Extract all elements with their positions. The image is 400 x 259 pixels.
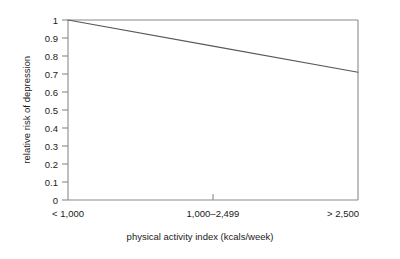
y-tick-label-1: 1	[18, 16, 58, 26]
y-axis-ticks	[62, 20, 68, 200]
data-line-relative-risk	[68, 20, 358, 72]
y-tick-label-0: 0	[18, 196, 58, 206]
x-tick-label-under-1000: < 1,000	[38, 209, 98, 219]
chart-figure: 1 0.9 0.8 0.7 0.6 0.5 0.4 0.3 0.2 0.1 0 …	[0, 0, 400, 259]
x-tick-label-over-2500: > 2,500	[313, 209, 373, 219]
x-axis-title: physical activity index (kcals/week)	[0, 232, 400, 242]
axis-frame	[68, 20, 358, 200]
x-tick-label-1000-2499: 1,000–2,499	[163, 209, 263, 219]
y-axis-title: relative risk of depression	[22, 40, 32, 180]
chart-plot-area	[0, 0, 400, 259]
